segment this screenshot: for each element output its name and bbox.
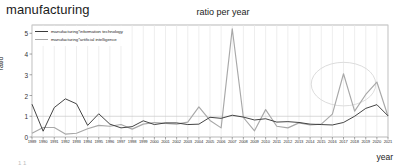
- x-tick-label-1991: 1991: [50, 139, 59, 144]
- x-tick-label-1996: 1996: [106, 139, 115, 144]
- legend-item-artificial-intelligence: manufacturing*artificial intelligence: [35, 36, 123, 43]
- x-tick-label-2017: 2017: [339, 139, 348, 144]
- x-tick-label-2003: 2003: [183, 139, 192, 144]
- x-axis-label: year: [376, 152, 393, 162]
- x-tick-label-2000: 2000: [150, 139, 159, 144]
- legend-item-information-technology: manufacturing*information technology: [35, 28, 123, 35]
- x-tick-label-2021: 2021: [384, 139, 393, 144]
- legend-swatch-artificial-intelligence: [35, 39, 48, 40]
- x-tick-label-1997: 1997: [117, 139, 126, 144]
- x-tick-label-2018: 2018: [350, 139, 359, 144]
- x-tick-label-2007: 2007: [228, 139, 237, 144]
- x-tick-label-1993: 1993: [72, 139, 81, 144]
- x-tick-label-2010: 2010: [261, 139, 270, 144]
- x-tick-label-2020: 2020: [373, 139, 382, 144]
- x-tick-label-2014: 2014: [306, 139, 315, 144]
- bottom-clipped-fragment: 1 1: [18, 160, 26, 166]
- x-tick-label-1999: 1999: [139, 139, 148, 144]
- x-tick-label-1994: 1994: [83, 139, 92, 144]
- x-tick-label-2005: 2005: [206, 139, 215, 144]
- chart-legend: manufacturing*information technology man…: [33, 26, 126, 46]
- x-tick-label-2011: 2011: [273, 139, 281, 144]
- x-tick-label-1995: 1995: [94, 139, 103, 144]
- x-tick-label-2001: 2001: [161, 139, 170, 144]
- x-tick-label-2012: 2012: [284, 139, 293, 144]
- x-tick-label-2015: 2015: [317, 139, 326, 144]
- legend-label-information-technology: manufacturing*information technology: [51, 29, 123, 34]
- x-tick-label-1990: 1990: [39, 139, 48, 144]
- y-axis-label: ratio: [0, 57, 4, 71]
- legend-swatch-information-technology: [35, 31, 48, 32]
- x-tick-label-2004: 2004: [195, 139, 204, 144]
- x-tick-label-2002: 2002: [172, 139, 181, 144]
- x-tick-label-2009: 2009: [250, 139, 259, 144]
- x-tick-label-1998: 1998: [128, 139, 137, 144]
- x-tick-label-2008: 2008: [239, 139, 248, 144]
- x-tick-label-2016: 2016: [328, 139, 337, 144]
- x-tick-label-1989: 1989: [28, 139, 37, 144]
- x-tick-label-2013: 2013: [295, 139, 304, 144]
- x-tick-label-1992: 1992: [61, 139, 70, 144]
- x-tick-label-2019: 2019: [361, 139, 370, 144]
- x-tick-label-2006: 2006: [217, 139, 226, 144]
- legend-label-artificial-intelligence: manufacturing*artificial intelligence: [51, 37, 117, 42]
